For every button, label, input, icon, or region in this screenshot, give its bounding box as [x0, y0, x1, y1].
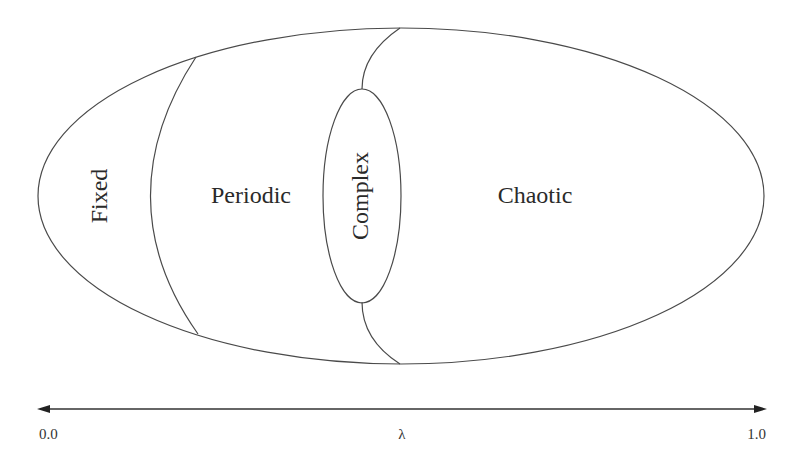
lambda-axis [37, 405, 767, 413]
right-arrowhead-icon [754, 405, 767, 413]
cellular-automata-regime-diagram: Fixed Periodic Complex Chaotic 0.0 λ 1.0 [0, 0, 804, 466]
axis-symbol-lambda: λ [398, 426, 406, 442]
axis-min-label: 0.0 [39, 426, 58, 442]
region-label-periodic: Periodic [211, 182, 291, 208]
axis-max-label: 1.0 [747, 426, 766, 442]
region-label-complex: Complex [347, 152, 373, 240]
left-arrowhead-icon [37, 405, 50, 413]
fixed-periodic-boundary [150, 57, 198, 334]
top-connector-curve [362, 28, 400, 89]
region-label-fixed: Fixed [86, 169, 112, 224]
bottom-connector-curve [362, 302, 400, 364]
region-label-chaotic: Chaotic [498, 182, 573, 208]
